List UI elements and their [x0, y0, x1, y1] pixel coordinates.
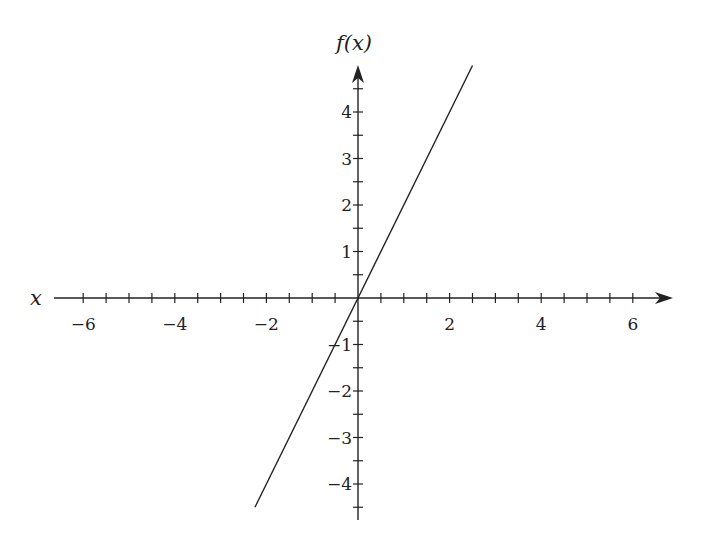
y-tick-label: −1 [327, 335, 352, 355]
function-line [255, 66, 473, 508]
x-axis-label: x [30, 286, 42, 310]
y-tick-label: 1 [341, 242, 352, 262]
x-tick-label: 4 [536, 314, 547, 334]
x-tick-label: 2 [444, 314, 455, 334]
y-tick-label: −3 [327, 428, 352, 448]
y-tick-label: 2 [341, 195, 352, 215]
y-tick-label: −2 [327, 381, 352, 401]
function-plot: −6−4−2246−4−3−2−11234 x f(x) [0, 0, 709, 550]
x-tick-label: −2 [254, 314, 279, 334]
x-tick-label: −4 [162, 314, 187, 334]
y-axis-label: f(x) [334, 31, 372, 55]
y-tick-label: 3 [341, 149, 352, 169]
axes [54, 65, 673, 520]
x-tick-label: −6 [71, 314, 96, 334]
y-tick-label: −4 [327, 474, 352, 494]
series [255, 66, 473, 508]
x-tick-label: 6 [627, 314, 638, 334]
y-tick-label: 4 [341, 102, 352, 122]
